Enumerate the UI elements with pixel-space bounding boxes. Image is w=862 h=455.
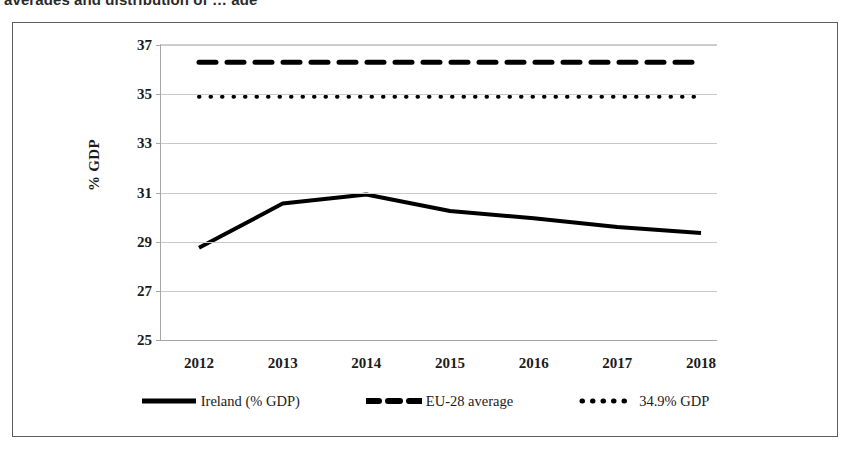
legend-item-eu28[interactable]: EU-28 average xyxy=(366,393,513,410)
y-tick-label-31: 31 xyxy=(137,184,152,201)
y-tickmark-35 xyxy=(156,94,161,95)
y-tick-label-37: 37 xyxy=(137,37,152,54)
y-tickmark-25 xyxy=(156,340,161,341)
chart-legend: Ireland (% GDP) EU-28 average 34.9% GDP xyxy=(12,386,838,416)
x-tick-label-2016: 2016 xyxy=(519,355,549,372)
y-tick-label-33: 33 xyxy=(137,135,152,152)
legend-item-threshold[interactable]: 34.9% GDP xyxy=(579,393,709,410)
legend-swatch-solid-icon xyxy=(141,396,197,406)
gridline-29 xyxy=(161,242,717,243)
x-tick-label-2017: 2017 xyxy=(602,355,632,372)
legend-label-eu28: EU-28 average xyxy=(426,393,513,410)
legend-swatch-dotted-icon xyxy=(579,396,635,406)
gridline-33 xyxy=(161,143,717,144)
gridline-25 xyxy=(161,340,717,341)
y-axis-title: % GDP xyxy=(86,139,103,191)
y-tickmark-31 xyxy=(156,193,161,194)
x-tick-label-2018: 2018 xyxy=(686,355,716,372)
legend-item-ireland[interactable]: Ireland (% GDP) xyxy=(141,393,300,410)
legend-label-ireland: Ireland (% GDP) xyxy=(201,393,300,410)
y-tick-label-27: 27 xyxy=(137,282,152,299)
x-tick-label-2014: 2014 xyxy=(351,355,381,372)
y-tickmark-27 xyxy=(156,291,161,292)
y-tickmark-29 xyxy=(156,242,161,243)
gridline-27 xyxy=(161,291,717,292)
x-tick-label-2015: 2015 xyxy=(435,355,465,372)
y-tick-label-29: 29 xyxy=(137,233,152,250)
gridline-37 xyxy=(161,45,717,46)
y-tickmark-33 xyxy=(156,143,161,144)
figure-caption-clipped: averages and distribution of … age xyxy=(0,0,862,5)
x-tick-label-2012: 2012 xyxy=(184,355,214,372)
gridline-31 xyxy=(161,193,717,194)
y-tick-label-35: 35 xyxy=(137,86,152,103)
y-tick-label-25: 25 xyxy=(137,332,152,349)
chart-figure-frame: % GDP 2527293133353720122013201420152016… xyxy=(12,22,838,437)
legend-label-threshold: 34.9% GDP xyxy=(639,393,709,410)
gridline-35 xyxy=(161,94,717,95)
series-line-0 xyxy=(199,194,701,247)
figure-caption-text: averages and distribution of … age xyxy=(0,0,257,5)
plot-area: 2527293133353720122013201420152016201720… xyxy=(160,44,717,340)
x-tick-label-2013: 2013 xyxy=(268,355,298,372)
legend-swatch-dashed-icon xyxy=(366,396,422,406)
y-tickmark-37 xyxy=(156,45,161,46)
